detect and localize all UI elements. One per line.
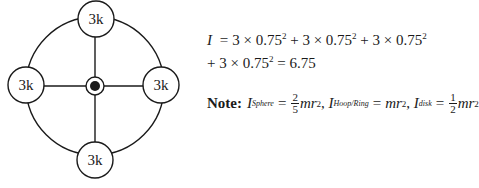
term: + 3 × 0.75 — [290, 32, 352, 48]
mass-top: 3k — [78, 1, 114, 37]
equation-line-2: + 3 × 0.752 = 6.75 — [207, 56, 316, 71]
result: = 6.75 — [277, 55, 315, 71]
mass-left: 3k — [8, 67, 44, 103]
note-label: Note: — [207, 96, 242, 111]
mass-right: 3k — [143, 67, 179, 103]
svg-text:3k: 3k — [19, 77, 35, 93]
term: 3 × 0.75 — [232, 32, 282, 48]
mass-bottom: 3k — [77, 142, 113, 178]
term: + 3 × 0.75 — [360, 32, 422, 48]
svg-text:3k: 3k — [88, 152, 104, 168]
inertia-symbol: I — [207, 32, 212, 48]
term: + 3 × 0.75 — [207, 55, 269, 71]
axis-pivot — [86, 77, 104, 95]
svg-text:3k: 3k — [89, 11, 105, 27]
fraction-two-fifths: 25 — [291, 92, 299, 115]
svg-text:3k: 3k — [154, 77, 170, 93]
note-formulas: Note: ISphere = 25 mr2, IHoop/Ring = mr2… — [207, 92, 479, 115]
rotating-masses-diagram: 3k 3k 3k 3k — [0, 0, 200, 188]
equation-line-1: I =3 × 0.752 + 3 × 0.752 + 3 × 0.752 — [207, 33, 427, 48]
fraction-one-half: 12 — [449, 92, 457, 115]
